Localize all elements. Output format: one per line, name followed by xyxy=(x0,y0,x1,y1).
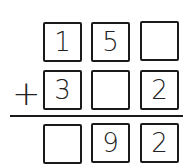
addend1-ones-box[interactable] xyxy=(140,21,179,61)
sum-tens-box[interactable]: 9 xyxy=(91,123,130,163)
addend2-tens-box[interactable] xyxy=(91,70,130,110)
sum-hundreds-box[interactable] xyxy=(43,124,82,164)
addend2-ones-box[interactable]: 2 xyxy=(140,70,179,110)
addend1-tens-box[interactable]: 5 xyxy=(91,22,130,62)
sum-line xyxy=(10,115,183,117)
addend1-hundreds-box[interactable]: 1 xyxy=(43,22,82,62)
addend2-hundreds-box[interactable]: 3 xyxy=(43,70,82,110)
sum-ones-box[interactable]: 2 xyxy=(140,123,179,163)
plus-sign: + xyxy=(12,78,41,108)
